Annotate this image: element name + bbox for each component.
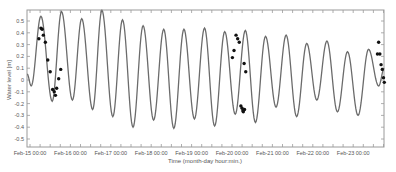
x-tick-label: Feb-18 00:00	[135, 150, 168, 156]
y-tick-label: 0.3	[16, 42, 24, 48]
observed-point	[46, 58, 49, 61]
observed-point	[44, 41, 47, 44]
x-tick-label: Feb-22 00:00	[296, 150, 329, 156]
observed-point	[54, 94, 57, 97]
x-tick-label: Feb-19 00:00	[175, 150, 208, 156]
observed-point	[244, 70, 247, 73]
observed-point	[57, 77, 60, 80]
observed-point	[40, 28, 43, 31]
observed-point	[55, 87, 58, 90]
water-level-chart: 0.50.40.30.20.10-0.1-0.2-0.3-0.4-0.5 Feb…	[0, 0, 396, 172]
observed-point	[383, 81, 386, 84]
y-axis-label: Water level [m]	[6, 60, 12, 100]
observed-point	[49, 70, 52, 73]
x-tick-label: Feb-17 00:00	[94, 150, 127, 156]
y-tick-label: 0.4	[16, 30, 24, 36]
y-tick-label: -0.5	[15, 136, 24, 142]
y-tick-label: -0.3	[15, 112, 24, 118]
observed-point	[42, 33, 45, 36]
y-tick-label: 0	[21, 77, 24, 83]
observed-point	[242, 62, 245, 65]
x-tick-label: Feb-20 00:00	[216, 150, 249, 156]
observed-point	[382, 76, 385, 79]
y-tick-label: -0.2	[15, 101, 24, 107]
observed-point	[377, 41, 380, 44]
observed-point	[236, 37, 239, 40]
observed-point	[241, 109, 244, 112]
x-tick-label: Feb-23 00:00	[337, 150, 370, 156]
y-tick-label: 0.5	[16, 18, 24, 24]
x-tick-label: Feb-21 00:00	[256, 150, 289, 156]
observed-point	[53, 90, 56, 93]
y-tick-label: -0.1	[15, 89, 24, 95]
observed-point	[37, 37, 40, 40]
x-tick-label: Feb-15 00:00	[14, 150, 47, 156]
observed-point	[381, 68, 384, 71]
x-tick-label: Feb-16 00:00	[54, 150, 87, 156]
observed-point	[59, 68, 62, 71]
y-tick-label: 0.1	[16, 65, 24, 71]
y-tick-label: 0.2	[16, 53, 24, 59]
observed-point	[379, 63, 382, 66]
observed-point	[234, 33, 237, 36]
x-axis-label: Time (month-day hour:min.)	[168, 158, 242, 164]
chart-canvas: 0.50.40.30.20.10-0.1-0.2-0.3-0.4-0.5 Feb…	[0, 0, 396, 172]
observed-point	[376, 52, 379, 55]
observed-point	[231, 56, 234, 59]
observed-point	[232, 49, 235, 52]
y-tick-label: -0.4	[15, 124, 24, 130]
observed-point	[238, 41, 241, 44]
